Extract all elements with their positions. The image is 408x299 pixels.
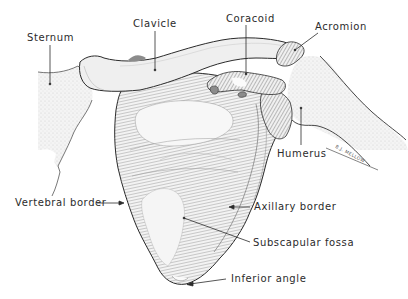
label-sternum: Sternum bbox=[27, 32, 74, 44]
label-inferior-angle: Inferior angle bbox=[231, 273, 306, 285]
label-clavicle: Clavicle bbox=[133, 18, 177, 30]
sternum-bone bbox=[38, 66, 93, 196]
label-subscapular-fossa: Subscapular fossa bbox=[253, 237, 354, 249]
label-axillary-border: Axillary border bbox=[254, 201, 336, 213]
label-acromion: Acromion bbox=[315, 21, 367, 33]
scapula-diagram: Sternum Clavicle Coracoid Acromion Humer… bbox=[0, 0, 408, 299]
label-vertebral-border: Vertebral border bbox=[15, 197, 107, 209]
scapula-bone bbox=[115, 73, 284, 285]
label-coracoid: Coracoid bbox=[226, 13, 275, 25]
acromion-leader bbox=[295, 33, 318, 50]
label-humerus: Humerus bbox=[277, 148, 327, 160]
